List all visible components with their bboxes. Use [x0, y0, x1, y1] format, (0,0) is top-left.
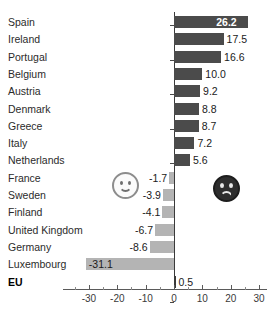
sad-eye-right — [229, 183, 233, 188]
x-tick-label: 20 — [216, 292, 246, 306]
x-tick-label: 10 — [187, 292, 217, 306]
x-tick-label: -20 — [102, 292, 132, 306]
bar — [174, 51, 221, 63]
bar — [174, 103, 199, 115]
bar-value-label: 0.5 — [178, 272, 193, 292]
bar — [174, 85, 200, 97]
bar — [150, 241, 174, 253]
bar — [174, 33, 224, 45]
row-tick — [170, 25, 174, 26]
bar — [174, 16, 248, 28]
bar — [174, 120, 199, 132]
bar — [155, 224, 174, 236]
bar — [169, 172, 174, 184]
x-tick — [259, 285, 260, 290]
happy-mouth — [119, 183, 132, 192]
x-tick — [117, 285, 118, 290]
x-tick-minor — [160, 287, 161, 290]
x-tick — [202, 285, 203, 290]
x-tick-label: -30 — [74, 292, 104, 306]
bar — [174, 137, 194, 149]
bar — [163, 189, 174, 201]
bar — [162, 206, 174, 218]
sad-mouth — [220, 191, 233, 199]
x-tick-label: -10 — [131, 292, 161, 306]
x-tick — [146, 285, 147, 290]
x-tick — [89, 285, 90, 290]
x-tick — [231, 285, 232, 290]
bar — [174, 154, 190, 166]
x-tick-label: 0 — [159, 292, 189, 306]
x-tick-minor — [103, 287, 104, 290]
x-tick-minor — [75, 287, 76, 290]
bar-chart: Spain26.2Ireland17.5Portugal16.6Belgium1… — [0, 0, 277, 309]
chart-row: EU0.5 — [0, 272, 277, 292]
x-tick-minor — [245, 287, 246, 290]
x-tick-minor — [217, 287, 218, 290]
x-tick-label: 30 — [244, 292, 274, 306]
x-tick-minor — [131, 287, 132, 290]
x-tick-minor — [188, 287, 189, 290]
smiley-happy-icon — [112, 172, 139, 199]
smiley-sad-icon — [213, 175, 240, 202]
bar — [174, 68, 202, 80]
x-tick — [174, 285, 175, 290]
row-label: EU — [8, 272, 23, 292]
sad-eye-left — [220, 183, 224, 188]
